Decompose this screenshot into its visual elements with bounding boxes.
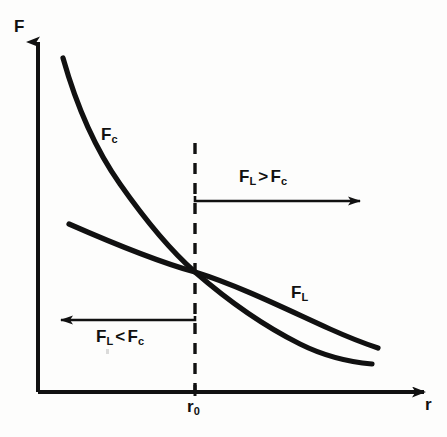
curve-label-base: F [101, 125, 112, 144]
cohesive-force-curve [63, 58, 372, 364]
inequality-left-base: F [96, 327, 107, 346]
inequality-right-subscript: c [281, 175, 287, 187]
inequality-left-base: F [239, 167, 250, 186]
inequality-relation: < [113, 327, 127, 346]
tick-subscript: 0 [194, 405, 200, 417]
curve-label-subscript: c [112, 133, 118, 145]
cohesion-dominant-label: FL<Fc [96, 328, 144, 345]
inequality-relation: > [256, 167, 270, 186]
inequality-left-subscript: L [250, 175, 257, 187]
y-axis-label: F [14, 18, 25, 35]
inequality-right-subscript: c [138, 335, 144, 347]
tick-base: r [187, 397, 194, 416]
x-tick-label-r0: r0 [187, 398, 200, 415]
inequality-left-subscript: L [107, 335, 114, 347]
attraction-dominant-label: FL>Fc [239, 168, 287, 185]
curve-label-base: F [291, 283, 302, 302]
inequality-right-base: F [127, 327, 138, 346]
curve-label-subscript: L [302, 291, 309, 303]
cohesion-dominant-arrow [61, 316, 195, 320]
attraction-dominant-arrow [195, 196, 360, 201]
curve-label-fc: Fc [101, 126, 118, 143]
scan-artifact-speck [106, 349, 109, 354]
curve-label-fl: FL [291, 284, 308, 301]
diagram-canvas [0, 0, 447, 437]
force-distance-diagram: F r r0 Fc FL FL>Fc FL<Fc [0, 0, 447, 437]
inequality-right-base: F [270, 167, 281, 186]
x-axis-label: r [425, 396, 432, 413]
